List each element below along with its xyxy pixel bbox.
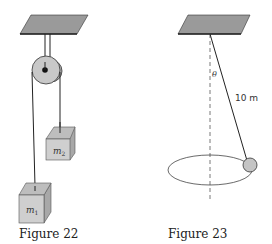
diagram-canvas: m2 m1 θ 10 m <box>0 0 272 244</box>
figure-23: θ 10 m <box>168 15 258 202</box>
rope-left <box>32 72 35 186</box>
length-label: 10 m <box>235 93 258 103</box>
ceiling-support <box>20 15 88 34</box>
ceiling-support <box>178 15 250 34</box>
figure-23-caption: Figure 23 <box>168 227 228 241</box>
figure-22: m2 m1 <box>19 15 88 223</box>
figure-22-caption: Figure 22 <box>19 227 79 241</box>
pendulum-bob <box>243 158 257 172</box>
angle-label: θ <box>212 70 217 79</box>
